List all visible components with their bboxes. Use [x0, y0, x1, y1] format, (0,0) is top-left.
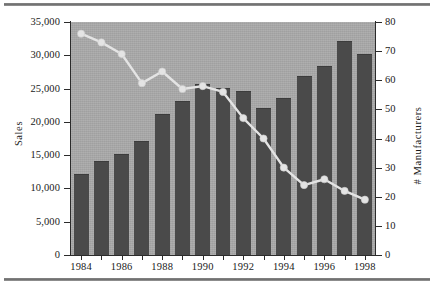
y-tick-right-7: [375, 51, 382, 52]
x-tick-1995: [304, 255, 305, 260]
y-tick-label-left-7: 35,000: [0, 17, 60, 27]
marker-1997: [341, 187, 348, 194]
y-tick-left-3: [64, 155, 71, 156]
x-tick-1992: [243, 255, 244, 260]
y-tick-label-left-4: 20,000: [0, 117, 60, 127]
y-tick-left-6: [64, 55, 71, 56]
x-tick-label-1986: 1986: [99, 261, 145, 273]
marker-1987: [138, 80, 145, 87]
y-tick-right-3: [375, 168, 382, 169]
marker-1993: [260, 135, 267, 142]
x-tick-label-1988: 1988: [139, 261, 185, 273]
marker-1988: [159, 68, 166, 75]
y-tick-label-left-5: 25,000: [0, 84, 60, 94]
x-tick-1984: [81, 255, 82, 260]
y-tick-label-left-0: 0: [0, 250, 60, 260]
x-tick-1998: [365, 255, 366, 260]
x-tick-1990: [203, 255, 204, 260]
top-rule: [4, 3, 430, 6]
x-tick-1991: [223, 255, 224, 260]
marker-1994: [280, 164, 287, 171]
y-tick-left-7: [64, 22, 71, 23]
x-tick-label-1994: 1994: [261, 261, 307, 273]
x-tick-1993: [264, 255, 265, 260]
marker-1986: [118, 50, 125, 57]
y-tick-label-left-6: 30,000: [0, 50, 60, 60]
y-tick-left-1: [64, 222, 71, 223]
x-tick-1986: [122, 255, 123, 260]
y-tick-right-0: [375, 255, 382, 256]
y-tick-label-right-8: 80: [385, 17, 411, 27]
marker-1992: [240, 115, 247, 122]
marker-1998: [361, 196, 368, 203]
y-tick-right-6: [375, 80, 382, 81]
y-tick-label-right-4: 40: [385, 134, 411, 144]
y-tick-label-left-3: 15,000: [0, 150, 60, 160]
x-tick-1997: [345, 255, 346, 260]
marker-1995: [300, 182, 307, 189]
y-tick-left-2: [64, 188, 71, 189]
marker-1996: [321, 176, 328, 183]
bottom-rule: [4, 278, 430, 281]
y-tick-label-right-2: 20: [385, 192, 411, 202]
x-tick-label-1992: 1992: [220, 261, 266, 273]
y-tick-right-1: [375, 226, 382, 227]
y-tick-left-5: [64, 89, 71, 90]
y-tick-label-right-5: 50: [385, 104, 411, 114]
y-tick-right-2: [375, 197, 382, 198]
marker-1984: [78, 30, 85, 37]
y-tick-label-right-3: 30: [385, 163, 411, 173]
y-tick-label-right-7: 70: [385, 46, 411, 56]
y-tick-label-left-1: 5,000: [0, 217, 60, 227]
y-axis-right-title: # Manufacturers: [412, 91, 423, 201]
x-tick-1996: [324, 255, 325, 260]
x-tick-1989: [182, 255, 183, 260]
x-tick-1987: [142, 255, 143, 260]
x-tick-label-1996: 1996: [301, 261, 347, 273]
y-tick-label-right-6: 60: [385, 75, 411, 85]
marker-1990: [199, 82, 206, 89]
marker-1989: [179, 85, 186, 92]
y-tick-right-8: [375, 22, 382, 23]
x-tick-label-1998: 1998: [342, 261, 388, 273]
y-tick-label-right-1: 10: [385, 221, 411, 231]
x-tick-1994: [284, 255, 285, 260]
marker-1985: [98, 39, 105, 46]
marker-1991: [219, 88, 226, 95]
figure-container: Sales # Manufacturers 05,00010,00015,000…: [0, 0, 434, 293]
x-tick-label-1984: 1984: [58, 261, 104, 273]
line-series-manufacturers: [71, 22, 375, 255]
x-tick-1985: [101, 255, 102, 260]
y-tick-right-5: [375, 109, 382, 110]
y-tick-label-left-2: 10,000: [0, 183, 60, 193]
y-tick-label-right-0: 0: [385, 250, 411, 260]
x-tick-1988: [162, 255, 163, 260]
y-tick-right-4: [375, 139, 382, 140]
y-tick-left-4: [64, 122, 71, 123]
plot-area: [71, 22, 375, 255]
y-axis-left-title: Sales: [13, 94, 24, 174]
y-tick-left-0: [64, 255, 71, 256]
x-tick-label-1990: 1990: [180, 261, 226, 273]
line-path-manufacturers: [81, 34, 365, 200]
